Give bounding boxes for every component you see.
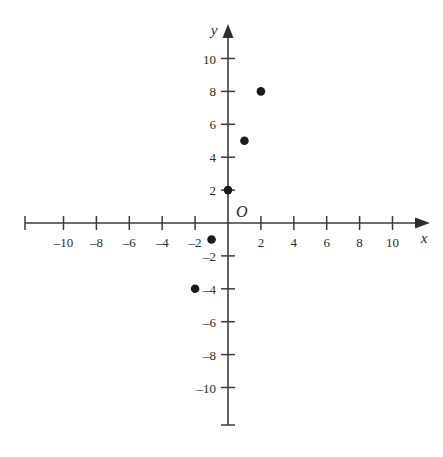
origin-label: O [236,203,248,220]
y-axis-tick-label: 6 [210,117,217,132]
x-axis-tick-label: –4 [155,235,170,250]
data-point: (1, 5) [240,136,249,145]
y-axis-tick-label: –8 [202,348,216,363]
y-axis-tick-label: –4 [202,282,217,297]
data-point: (-1, -1) [207,235,216,244]
x-axis-tick-label: 8 [356,235,363,250]
x-axis-tick-label: 4 [291,235,298,250]
y-axis-tick-label: 2 [210,183,217,198]
x-axis-tick-label: –6 [122,235,137,250]
data-point: (-2, -4) [191,285,200,294]
y-axis-tick-label: 10 [203,52,216,67]
coordinate-plane-figure: –10–8–6–4–2246810 108642–2–4–6–8–10 x y … [0,0,443,457]
x-axis-arrow-icon [415,218,430,229]
x-axis-tick-label: 6 [323,235,330,250]
y-axis-tick-label: –6 [202,315,217,330]
x-axis-tick-label: –8 [89,235,103,250]
y-axis-arrow-icon [223,24,234,38]
y-axis-tick-label: 4 [210,150,217,165]
y-axis-tick-label: 8 [210,84,217,99]
y-axis-label: y [209,22,218,38]
scatter-plot-svg: –10–8–6–4–2246810 108642–2–4–6–8–10 x y … [0,0,443,457]
data-point: (2, 8) [257,87,266,96]
x-axis-tick-label: 10 [386,235,399,250]
x-axis-tick-label: –10 [53,235,74,250]
y-axis-group [221,24,235,425]
y-axis-tick-label: –2 [202,249,216,264]
y-axis-tick-label: –10 [196,381,217,396]
x-axis-label: x [420,230,428,246]
x-axis-tick-label: –2 [188,235,202,250]
x-axis-tick-label: 2 [258,235,265,250]
data-point: (0, 2) [224,186,233,195]
x-axis-tick-labels: –10–8–6–4–2246810 [53,235,399,250]
